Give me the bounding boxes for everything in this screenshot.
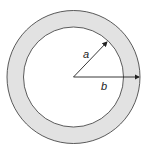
label-a: a [83, 48, 89, 60]
annulus-diagram: a b [0, 0, 147, 153]
label-b: b [101, 80, 107, 92]
